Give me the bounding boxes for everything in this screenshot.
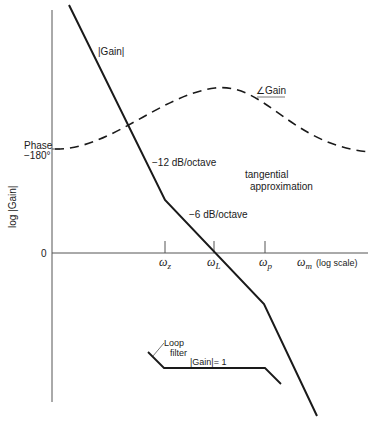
bode-diagram: |Gain| ∠Gain Phase −180° −12 dB/octave −… bbox=[0, 0, 377, 423]
y-axis-label: log |Gain| bbox=[7, 186, 18, 228]
log-scale-label: (log scale) bbox=[316, 258, 358, 268]
omega-z-label: ωz bbox=[159, 255, 171, 271]
slope-6-label: −6 dB/octave bbox=[189, 209, 248, 220]
gain-phase-label: ∠Gain bbox=[256, 85, 286, 96]
approximation-label: approximation bbox=[250, 181, 313, 192]
y-zero-label: 0 bbox=[41, 248, 47, 259]
unity-gain-label: |Gain|= 1 bbox=[190, 357, 226, 367]
loop-label: Loop bbox=[164, 338, 184, 348]
gain-phase-curve bbox=[55, 88, 370, 152]
slope-12-label: −12 dB/octave bbox=[152, 157, 217, 168]
loop-filter-leader bbox=[153, 343, 164, 356]
phase-180-label: −180° bbox=[24, 150, 51, 161]
gain-magnitude-label: |Gain| bbox=[98, 46, 124, 57]
tangential-label: tangential bbox=[245, 169, 288, 180]
omega-p-label: ωp bbox=[259, 255, 272, 271]
omega-m-label: ωm bbox=[297, 255, 312, 271]
filter-label: filter bbox=[170, 348, 187, 358]
